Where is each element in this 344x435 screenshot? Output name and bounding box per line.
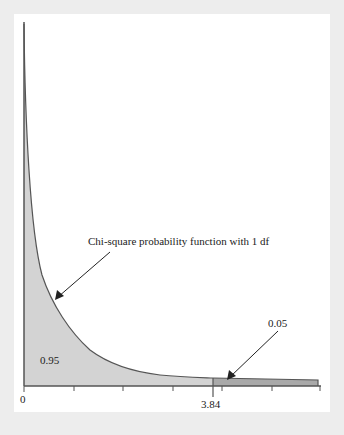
body-area-label: 0.95 <box>40 354 60 366</box>
tail-area-arrow <box>227 331 278 380</box>
acceptance-region <box>24 24 213 386</box>
x-tick-label-critical: 3.84 <box>201 398 221 410</box>
x-ticks <box>24 386 320 392</box>
curve-annotation-arrow <box>55 252 110 300</box>
x-tick-label-0: 0 <box>20 393 26 405</box>
chi-square-chart: 0 3.84 0.95 Chi-square probability funct… <box>0 0 344 435</box>
curve-annotation: Chi-square probability function with 1 d… <box>88 235 269 247</box>
tail-area-label: 0.05 <box>268 317 288 329</box>
